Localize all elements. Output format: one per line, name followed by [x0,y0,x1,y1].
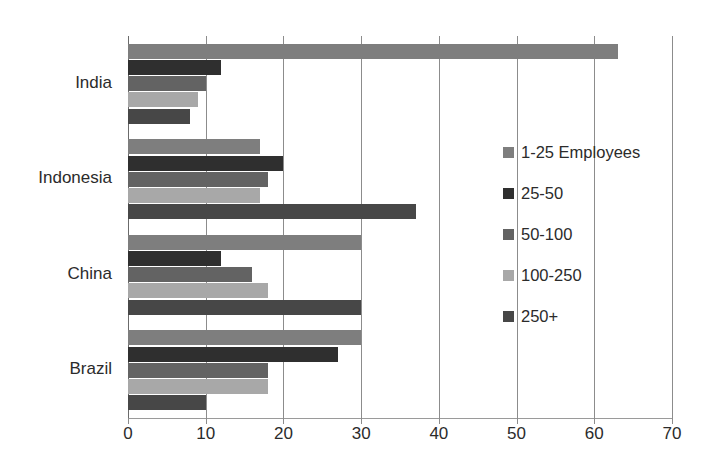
bar-fill [128,330,361,345]
legend-swatch-icon [503,188,514,199]
bar [128,172,268,187]
x-axis-tick-labels: 010203040506070 [128,424,673,454]
bar [128,204,416,219]
bar-fill [128,347,338,362]
tick-label-10: 10 [196,424,215,444]
bar [128,251,221,266]
legend-swatch-icon [503,147,514,158]
category-label-brazil: Brazil [0,359,112,379]
bar [128,300,361,315]
bar-fill [128,172,268,187]
bar [128,156,283,171]
bar-fill [128,60,221,75]
bar-fill [128,363,268,378]
bar [128,347,338,362]
bar [128,60,221,75]
category-axis-labels: IndiaIndonesiaChinaBrazil [0,36,120,418]
legend-item-4[interactable]: 250+ [503,296,703,337]
bar-fill [128,267,252,282]
bar [128,92,198,107]
tick-label-40: 40 [429,424,448,444]
legend-swatch-icon [503,311,514,322]
bar [128,379,268,394]
bar-chart-figure: IndiaIndonesiaChinaBrazil 01020304050607… [0,0,707,474]
bar-fill [128,109,190,124]
legend-swatch-icon [503,270,514,281]
x-axis-line [128,418,673,419]
bar [128,109,190,124]
tick-label-30: 30 [352,424,371,444]
legend-label: 1-25 Employees [521,144,640,161]
legend-item-2[interactable]: 50-100 [503,214,703,255]
bar [128,363,268,378]
legend-item-0[interactable]: 1-25 Employees [503,132,703,173]
bar-fill [128,188,260,203]
bar [128,330,361,345]
bar [128,235,361,250]
bar [128,395,206,410]
bar-fill [128,300,361,315]
bar-fill [128,251,221,266]
bar-fill [128,379,268,394]
bar-fill [128,204,416,219]
clipped-header-text [8,0,308,14]
category-label-india: India [0,73,112,93]
legend-label: 250+ [521,308,558,325]
bar [128,44,618,59]
tick-label-50: 50 [507,424,526,444]
legend-label: 50-100 [521,226,572,243]
bar-fill [128,44,618,59]
tick-label-60: 60 [585,424,604,444]
legend-swatch-icon [503,229,514,240]
bar-group-india [128,36,672,132]
legend-label: 100-250 [521,267,582,284]
bar-fill [128,283,268,298]
bar-fill [128,235,361,250]
category-label-indonesia: Indonesia [0,168,112,188]
bar-fill [128,76,206,91]
legend-item-1[interactable]: 25-50 [503,173,703,214]
bar [128,267,252,282]
tick-label-70: 70 [663,424,682,444]
bar-fill [128,156,283,171]
tick-label-20: 20 [274,424,293,444]
bar [128,139,260,154]
category-label-china: China [0,264,112,284]
bar [128,188,260,203]
bar-fill [128,92,198,107]
legend-label: 25-50 [521,185,563,202]
bar-fill [128,395,206,410]
legend-item-3[interactable]: 100-250 [503,255,703,296]
bar [128,76,206,91]
chart-legend: 1-25 Employees25-5050-100100-250250+ [503,132,703,337]
bar-fill [128,139,260,154]
bar [128,283,268,298]
tick-label-0: 0 [123,424,132,444]
